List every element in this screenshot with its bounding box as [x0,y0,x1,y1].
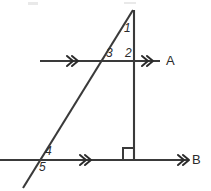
scan-artifact-left [28,2,38,5]
geometry-canvas [0,0,211,191]
angle-label-3: 3 [106,47,113,59]
angle-label-2: 2 [125,47,132,59]
angle-label-5: 5 [39,161,46,173]
line-a-label: A [166,54,175,67]
angle-label-4: 4 [45,145,52,157]
line-b-label: B [192,153,201,166]
right-angle-icon [123,148,134,159]
scan-artifact-right [124,2,136,4]
geometry-figure: 1 3 2 4 5 A B [0,0,211,191]
angle-label-1: 1 [124,22,131,34]
